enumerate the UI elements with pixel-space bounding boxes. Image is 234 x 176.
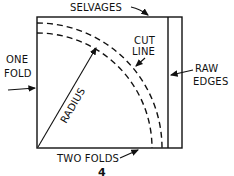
folded-fabric-square bbox=[37, 17, 182, 148]
one-fold-label-line2: FOLD bbox=[4, 68, 32, 79]
cut-line-label-line1: CUT bbox=[134, 35, 156, 46]
radius-arrow bbox=[38, 48, 96, 147]
one-fold-label-line1: ONE bbox=[6, 54, 28, 65]
figure-number: 4 bbox=[98, 166, 106, 176]
selvages-arrow bbox=[131, 7, 148, 15]
cut-line-label-line2: LINE bbox=[132, 46, 155, 57]
raw-edges-label-line2: EDGES bbox=[193, 76, 228, 87]
raw-edges-label-line1: RAW bbox=[195, 63, 218, 74]
fabric-fold-diagram: SELVAGES ONE FOLD CUT LINE RAW EDGES RAD… bbox=[0, 0, 234, 176]
two-folds-label: TWO FOLDS bbox=[56, 153, 119, 164]
selvages-label: SELVAGES bbox=[70, 2, 122, 13]
one-fold-arrow bbox=[8, 88, 35, 90]
cut-line-arrow bbox=[136, 58, 145, 66]
two-folds-arrow bbox=[120, 150, 138, 158]
